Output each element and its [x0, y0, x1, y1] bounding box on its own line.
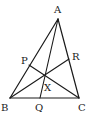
label-q: Q: [35, 102, 43, 113]
label-a: A: [53, 4, 62, 15]
label-b: B: [1, 102, 8, 113]
label-r: R: [72, 51, 80, 62]
cevian-br: [10, 59, 69, 98]
triangle-diagram: A B C P R Q X: [0, 0, 94, 120]
label-c: C: [78, 102, 86, 113]
label-x: X: [44, 82, 52, 93]
label-p: P: [21, 55, 28, 66]
